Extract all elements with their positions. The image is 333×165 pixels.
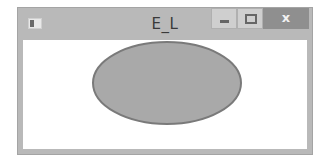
close-button[interactable]: x xyxy=(263,8,309,29)
drawing-canvas xyxy=(23,40,307,149)
maximize-button[interactable] xyxy=(237,8,263,29)
app-window: E_L x xyxy=(17,7,313,155)
minimize-button[interactable] xyxy=(211,8,237,29)
title-bar[interactable]: E_L x xyxy=(18,8,312,38)
client-area xyxy=(23,40,307,149)
ellipse-shape xyxy=(93,42,241,124)
